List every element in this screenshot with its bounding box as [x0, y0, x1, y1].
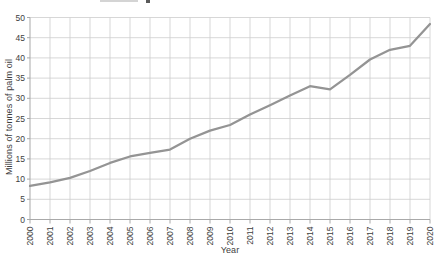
- x-axis-title: Year: [30, 245, 430, 255]
- x-tick-label: 2012: [265, 226, 275, 245]
- x-tick-label: 2011: [245, 226, 255, 245]
- x-tick-label: 2018: [385, 226, 395, 245]
- y-axis-title: Millions of tonnes of palm oil: [4, 11, 14, 223]
- x-tick-label: 2003: [85, 226, 95, 245]
- x-tick-label: 2017: [365, 226, 375, 245]
- y-tick-label: 20: [16, 134, 26, 144]
- palm-oil-line-chart: 0510152025303540455020002001200220032004…: [0, 0, 435, 263]
- x-tick-label: 2008: [185, 226, 195, 245]
- x-tick-label: 2004: [105, 226, 115, 245]
- x-tick-label: 2006: [145, 226, 155, 245]
- x-tick-label: 2020: [425, 226, 435, 245]
- y-tick-label: 25: [16, 114, 26, 124]
- y-tick-label: 35: [16, 73, 26, 83]
- x-tick-label: 2014: [305, 226, 315, 245]
- x-tick-label: 2015: [325, 226, 335, 245]
- x-tick-label: 2016: [345, 226, 355, 245]
- x-tick-label: 2013: [285, 226, 295, 245]
- x-tick-label: 2007: [165, 226, 175, 245]
- x-tick-label: 2001: [45, 226, 55, 245]
- x-tick-label: 2000: [25, 226, 35, 245]
- x-tick-label: 2005: [125, 226, 135, 245]
- y-tick-label: 10: [16, 174, 26, 184]
- chart-container: 0510152025303540455020002001200220032004…: [0, 0, 435, 263]
- y-tick-label: 50: [16, 13, 26, 23]
- x-tick-label: 2009: [205, 226, 215, 245]
- y-tick-label: 30: [16, 93, 26, 103]
- y-tick-label: 40: [16, 53, 26, 63]
- y-tick-label: 15: [16, 154, 26, 164]
- x-tick-label: 2002: [65, 226, 75, 245]
- y-tick-label: 45: [16, 33, 26, 43]
- y-tick-label: 0: [20, 215, 25, 225]
- y-tick-label: 5: [20, 194, 25, 204]
- x-tick-label: 2010: [225, 226, 235, 245]
- x-tick-label: 2019: [405, 226, 415, 245]
